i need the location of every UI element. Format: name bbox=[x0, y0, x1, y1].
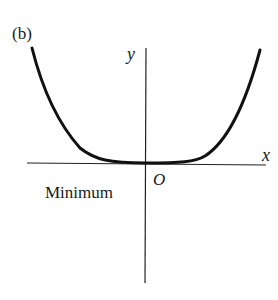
origin-label: O bbox=[153, 170, 165, 190]
graph bbox=[0, 0, 278, 300]
x-axis-label: x bbox=[262, 145, 270, 166]
y-axis bbox=[145, 48, 146, 283]
minimum-annotation: Minimum bbox=[45, 183, 113, 203]
y-axis-label: y bbox=[127, 44, 135, 65]
panel-label: (b) bbox=[12, 24, 32, 44]
